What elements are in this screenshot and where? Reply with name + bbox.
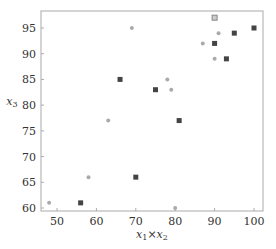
data-point-square: [133, 175, 138, 180]
x-tick-label: 50: [50, 215, 64, 228]
data-point-circle: [217, 31, 221, 35]
x-axis-label: x1×x2: [136, 228, 168, 242]
data-point-circle: [201, 41, 205, 45]
x-tick-label: 100: [244, 215, 265, 228]
y-tick-label: 85: [22, 73, 36, 86]
y-tick-label: 60: [22, 202, 36, 215]
x-tick-label: 90: [208, 215, 222, 228]
data-point-square: [78, 200, 83, 205]
y-tick-label: 70: [22, 151, 36, 164]
data-point-circle: [173, 206, 177, 210]
data-point-square: [118, 77, 123, 82]
data-point-square: [232, 31, 237, 36]
y-tick-label: 95: [22, 22, 36, 35]
data-point-circle: [106, 119, 110, 123]
data-point-circle: [213, 57, 217, 61]
x-tick-label: 70: [129, 215, 143, 228]
scatter-chart: 5060708090100 6065707580859095 x1×x2 x3: [0, 0, 276, 249]
y-tick-label: 80: [22, 99, 36, 112]
data-point-circle: [169, 88, 173, 92]
data-point-circle: [47, 201, 51, 205]
data-point-hatched-square: [212, 15, 217, 20]
y-tick-label: 90: [22, 48, 36, 61]
data-point-circle: [130, 26, 134, 30]
y-tick-label: 65: [22, 176, 36, 189]
data-point-square: [224, 56, 229, 61]
plot-frame: [41, 11, 263, 211]
y-axis-label: x3: [6, 95, 17, 109]
data-point-square: [212, 41, 217, 46]
data-point-square: [177, 118, 182, 123]
y-tick-label: 75: [22, 125, 36, 138]
x-tick-label: 80: [168, 215, 182, 228]
data-point-circle: [87, 175, 91, 179]
data-points: [47, 15, 256, 210]
x-tick-label: 60: [89, 215, 103, 228]
data-point-square: [153, 87, 158, 92]
data-point-square: [252, 25, 257, 30]
data-point-circle: [165, 77, 169, 81]
